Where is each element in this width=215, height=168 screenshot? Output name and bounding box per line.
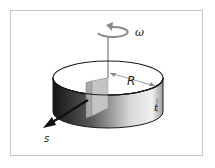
thickness-label: t (154, 103, 158, 113)
rotation-arrow-icon (98, 22, 128, 37)
radius-label: R (127, 75, 135, 87)
direction-label: s (44, 134, 49, 144)
omega-label: ω (135, 27, 144, 38)
rotating-disk-diagram (0, 0, 215, 168)
